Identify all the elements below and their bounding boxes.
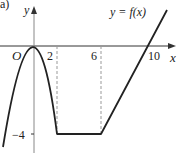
x-axis-label: x xyxy=(169,50,176,65)
y-axis xyxy=(31,6,37,153)
y-axis-label: y xyxy=(23,3,30,17)
curve-label: y = f(x) xyxy=(109,5,146,19)
y-tick-label-minus4: −4 xyxy=(12,128,25,142)
panel-label: (a) xyxy=(0,0,9,11)
function-graph: (a) y x O 2 6 10 −4 y = f(x) xyxy=(0,0,182,153)
x-tick-label-2: 2 xyxy=(47,49,53,63)
origin-label: O xyxy=(12,48,22,63)
x-tick-label-6: 6 xyxy=(91,49,97,63)
function-curve xyxy=(3,10,167,147)
x-tick-label-10: 10 xyxy=(148,49,160,63)
